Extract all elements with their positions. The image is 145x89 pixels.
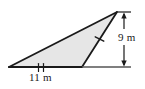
geometry-figure: 11 m 9 m	[0, 0, 145, 89]
height-arrow-up-icon	[121, 13, 126, 19]
height-length-label: 9 m	[118, 32, 135, 43]
base-length-label: 11 m	[29, 72, 52, 83]
triangle-diagram-svg	[0, 0, 145, 89]
height-arrow-down-icon	[121, 61, 126, 67]
